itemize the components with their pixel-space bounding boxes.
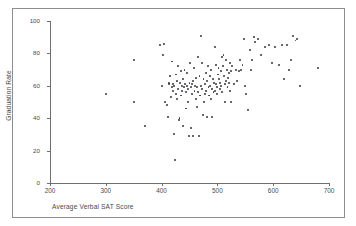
data-point	[230, 101, 232, 103]
data-point	[240, 69, 242, 71]
data-point	[168, 83, 170, 85]
data-point	[166, 104, 168, 106]
data-point	[194, 90, 196, 92]
data-point	[198, 135, 200, 137]
data-point	[200, 35, 202, 37]
data-point	[226, 69, 228, 71]
y-tick-label: 100	[14, 18, 40, 24]
data-point	[251, 59, 253, 61]
data-point	[188, 135, 190, 137]
data-point	[229, 62, 231, 64]
data-point	[274, 46, 276, 48]
x-tick	[217, 183, 218, 186]
data-point	[201, 88, 203, 90]
data-point	[296, 38, 298, 40]
x-tick-label: 500	[202, 188, 232, 194]
data-point	[184, 69, 186, 71]
data-point	[283, 78, 285, 80]
x-axis-title: Average Verbal SAT Score	[52, 203, 134, 210]
y-tick-label: 80	[14, 50, 40, 56]
data-point	[257, 38, 259, 40]
data-point	[218, 67, 220, 69]
data-point	[236, 80, 238, 82]
x-tick	[329, 183, 330, 186]
data-point	[254, 41, 256, 43]
data-point	[191, 83, 193, 85]
data-point	[173, 85, 175, 87]
x-tick	[50, 183, 51, 186]
data-point	[179, 82, 181, 84]
data-point	[176, 98, 178, 100]
x-tick-label: 400	[147, 188, 177, 194]
data-point	[172, 90, 174, 92]
data-point	[224, 83, 226, 85]
data-point	[215, 64, 217, 66]
data-point	[185, 91, 187, 93]
y-tick-label: 40	[14, 115, 40, 121]
data-point	[183, 86, 185, 88]
data-point	[133, 59, 135, 61]
x-tick-label: 700	[314, 188, 344, 194]
data-point	[171, 61, 173, 63]
data-point	[221, 56, 223, 58]
data-point	[200, 85, 202, 87]
data-point	[264, 46, 266, 48]
data-point	[218, 78, 220, 80]
data-point	[268, 44, 270, 46]
data-point	[235, 69, 237, 71]
data-point	[239, 59, 241, 61]
data-point	[202, 114, 204, 116]
data-point	[217, 74, 219, 76]
data-point	[223, 75, 225, 77]
data-point	[228, 72, 230, 74]
data-point	[216, 93, 218, 95]
data-point	[196, 106, 198, 108]
data-point	[182, 125, 184, 127]
data-point	[185, 108, 187, 110]
data-point	[212, 78, 214, 80]
data-point	[215, 83, 217, 85]
data-point	[209, 75, 211, 77]
y-tick-label: 20	[14, 148, 40, 154]
plot-data-area	[50, 21, 329, 183]
data-point	[169, 75, 171, 77]
data-point	[295, 40, 297, 42]
data-point	[186, 85, 188, 87]
data-point	[167, 116, 169, 118]
y-tick-label: 0	[14, 180, 40, 186]
data-point	[222, 65, 224, 67]
data-point	[177, 88, 179, 90]
data-point	[197, 56, 199, 58]
data-point	[211, 116, 213, 118]
data-point	[170, 96, 172, 98]
data-point	[161, 85, 163, 87]
data-point	[201, 62, 203, 64]
data-point	[230, 70, 232, 72]
data-point	[197, 91, 199, 93]
data-point	[180, 95, 182, 97]
data-point	[229, 90, 231, 92]
data-point	[214, 90, 216, 92]
data-point	[203, 101, 205, 103]
scan-top-artifact	[96, 0, 256, 3]
data-point	[223, 54, 225, 56]
y-tick-label: 60	[14, 83, 40, 89]
data-point	[205, 72, 207, 74]
data-point	[208, 86, 210, 88]
data-point	[179, 117, 181, 119]
data-point	[207, 65, 209, 67]
data-point	[171, 86, 173, 88]
data-point	[220, 85, 222, 87]
data-point	[199, 95, 201, 97]
data-point	[105, 93, 107, 95]
data-point	[245, 93, 247, 95]
data-point	[260, 54, 262, 56]
data-point	[281, 44, 283, 46]
data-point	[163, 43, 165, 45]
data-point	[247, 109, 249, 111]
data-point	[219, 88, 221, 90]
data-point	[175, 93, 177, 95]
x-tick	[106, 183, 107, 186]
data-point	[278, 64, 280, 66]
data-point	[209, 85, 211, 87]
